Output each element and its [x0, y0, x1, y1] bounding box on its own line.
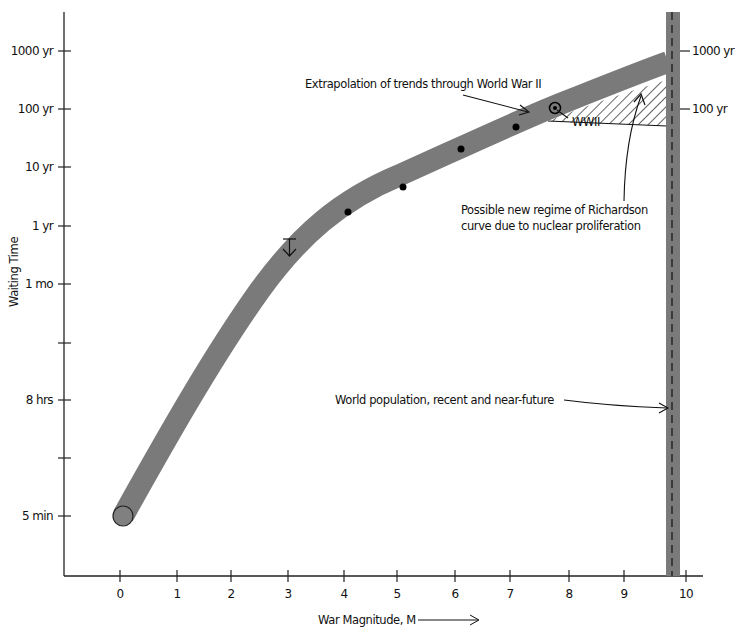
data-point	[458, 146, 465, 153]
y-tick-label: 8 hrs	[26, 393, 54, 407]
data-point	[400, 184, 407, 191]
x-tick-label: 6	[451, 587, 458, 601]
x-tick-label: 5	[393, 587, 400, 601]
y-axis-label: Waiting Time	[7, 237, 21, 307]
right-tick-label: 100 yr	[692, 102, 728, 116]
x-axis-label: War Magnitude, M	[318, 613, 416, 627]
right-axis-ticks: 1000 yr 100 yr	[680, 44, 735, 116]
annotation-regime-line2: curve due to nuclear proliferation	[461, 219, 641, 233]
population-arrow-icon	[564, 400, 668, 413]
data-point	[513, 124, 520, 131]
wwii-point	[553, 106, 557, 110]
y-tick-label: 1000 yr	[11, 44, 54, 58]
world-population-band	[666, 12, 680, 576]
y-tick-label: 1 yr	[32, 219, 54, 233]
y-tick-label: 10 yr	[25, 160, 54, 174]
x-tick-label: 8	[565, 587, 572, 601]
data-point	[345, 209, 352, 216]
x-axis-arrow-icon	[418, 615, 479, 625]
richardson-chart: 1000 yr 100 yr 10 yr 1 yr 1 mo 8 hrs 5 m…	[0, 0, 735, 627]
y-tick-label: 100 yr	[18, 102, 54, 116]
x-tick-label: 1	[173, 587, 180, 601]
annotation-regime-line1: Possible new regime of Richardson	[461, 203, 648, 217]
x-tick-labels: 0 1 2 3 4 5 6 7 8 9 10	[116, 587, 693, 601]
x-tick-label: 0	[116, 587, 123, 601]
x-tick-label: 10	[679, 587, 693, 601]
x-tick-label: 3	[284, 587, 291, 601]
annotation-world-population: World population, recent and near-future	[335, 393, 554, 407]
right-tick-label: 1000 yr	[692, 44, 735, 58]
annotation-extrapolation: Extrapolation of trends through World Wa…	[305, 77, 541, 91]
curve-start-cap	[113, 506, 133, 526]
y-tick-label: 5 min	[22, 509, 53, 523]
x-axis	[64, 570, 703, 582]
x-tick-label: 7	[506, 587, 513, 601]
x-tick-label: 2	[227, 587, 234, 601]
annotation-wwii: WWII	[572, 115, 600, 129]
y-tick-label: 1 mo	[25, 277, 53, 291]
richardson-curve-band	[123, 62, 668, 516]
y-axis	[58, 12, 71, 576]
x-tick-label: 9	[620, 587, 627, 601]
x-tick-label: 4	[340, 587, 347, 601]
